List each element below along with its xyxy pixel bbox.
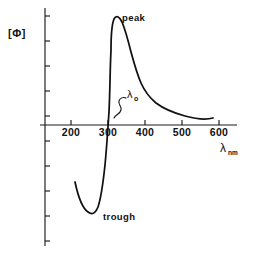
ord-curve-figure: 200 300 400 500 600 [Φ] λ nm λ o peak tr… bbox=[0, 0, 264, 257]
x-axis-ticks bbox=[71, 120, 219, 125]
x-tick-label-200: 200 bbox=[62, 126, 80, 138]
y-axis-title: [Φ] bbox=[8, 27, 26, 39]
lambda-zero-label: λ bbox=[127, 88, 133, 100]
lambda-zero-leader-icon bbox=[114, 98, 126, 118]
trough-label: trough bbox=[103, 211, 135, 222]
x-tick-label-400: 400 bbox=[136, 126, 154, 138]
ord-curve bbox=[75, 17, 213, 214]
peak-label: peak bbox=[122, 12, 146, 23]
x-tick-label-500: 500 bbox=[173, 126, 191, 138]
x-axis-title-units: nm bbox=[228, 149, 238, 156]
ord-plot-canvas: 200 300 400 500 600 [Φ] λ nm λ o peak tr… bbox=[0, 0, 264, 257]
x-tick-label-600: 600 bbox=[210, 126, 228, 138]
y-axis-ticks bbox=[45, 16, 50, 241]
x-axis-title-lambda: λ bbox=[220, 141, 226, 155]
lambda-zero-subscript: o bbox=[134, 95, 138, 102]
